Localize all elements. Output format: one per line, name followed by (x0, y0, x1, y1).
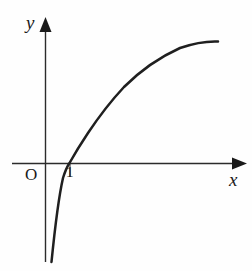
x-axis-label: x (229, 170, 237, 189)
graph-canvas (0, 0, 252, 271)
logarithm-curve (52, 41, 219, 262)
origin-label: O (25, 166, 37, 183)
x-intercept-tick-label: 1 (66, 165, 74, 180)
y-axis-arrowhead (40, 17, 52, 32)
logarithm-graph-figure: y x O 1 (0, 0, 252, 271)
y-axis-label: y (26, 13, 34, 32)
x-axis-arrowhead (232, 158, 247, 170)
